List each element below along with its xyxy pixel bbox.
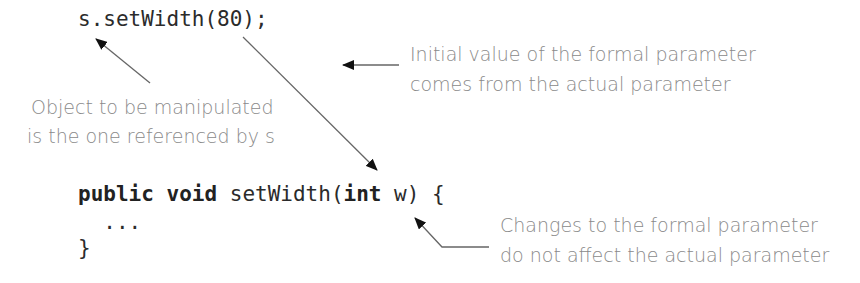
method-close-brace: }	[78, 238, 91, 259]
method-declaration-code: public void setWidth(int w) {	[78, 184, 445, 205]
changes-annotation-line1: Changes to the formal parameter	[500, 216, 818, 235]
keyword-public: public	[78, 182, 154, 206]
object-arrow	[96, 39, 150, 83]
method-body-code: ...	[78, 212, 141, 233]
changes-annotation-line2: do not affect the actual parameter	[500, 246, 829, 265]
method-call-code: s.setWidth(80);	[78, 9, 268, 30]
object-annotation-line2: is the one referenced by s	[27, 127, 275, 146]
object-annotation-line1: Object to be manipulated	[31, 98, 274, 117]
keyword-int: int	[344, 182, 382, 206]
method-name: setWidth(	[217, 182, 343, 206]
keyword-void: void	[167, 182, 218, 206]
formal-parameter: w) {	[381, 182, 444, 206]
initial-value-annotation-line1: Initial value of the formal parameter	[410, 45, 756, 64]
initial-value-annotation-line2: comes from the actual parameter	[410, 75, 731, 94]
changes-arrow	[415, 218, 489, 247]
